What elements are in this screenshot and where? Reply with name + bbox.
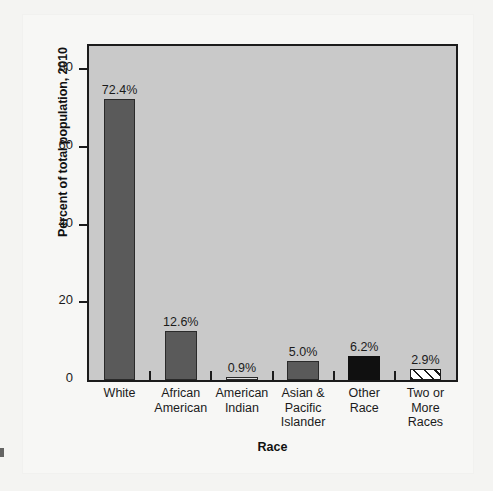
bar-asian-pacific-islander: 5.0% (287, 361, 319, 380)
bar-chart-figure: Percent of total population, 2010 020406… (0, 0, 493, 491)
figure-page: Percent of total population, 2010 020406… (0, 0, 493, 491)
y-tick-mark (79, 68, 87, 70)
x-axis-title: Race (87, 440, 458, 454)
y-tick-mark (79, 146, 87, 148)
x-category-label: Asian &PacificIslander (273, 386, 334, 430)
plot-inner (89, 46, 456, 380)
x-tick-mark (272, 371, 274, 380)
x-category-line: Islander (273, 415, 334, 430)
plot-area (87, 44, 458, 382)
bar-white: 72.4% (104, 99, 136, 380)
x-category-line: Race (334, 401, 395, 416)
bar-african-american: 12.6% (165, 331, 197, 380)
x-category-line: American (150, 401, 211, 416)
y-tick-label: 60 (45, 137, 73, 152)
y-tick-mark (79, 301, 87, 303)
x-category-line: Pacific (273, 401, 334, 416)
x-category-line: More (395, 401, 456, 416)
y-tick-mark (79, 224, 87, 226)
bar-other-race: 6.2% (348, 356, 380, 380)
x-category-line: Other (334, 386, 395, 401)
x-tick-mark (149, 371, 151, 380)
bar-value-label: 12.6% (163, 315, 198, 329)
x-category-line: Races (395, 415, 456, 430)
x-category-line: Indian (211, 401, 272, 416)
bar-value-label: 6.2% (350, 340, 379, 354)
bar-value-label: 72.4% (102, 83, 137, 97)
x-category-label: White (89, 386, 150, 401)
x-category-label: AfricanAmerican (150, 386, 211, 415)
x-category-line: Two or (395, 386, 456, 401)
x-category-label: AmericanIndian (211, 386, 272, 415)
bar-value-label: 5.0% (289, 345, 318, 359)
y-tick-label: 20 (45, 292, 73, 307)
bar-two-or-more-races: 2.9% (410, 369, 442, 380)
x-tick-mark (210, 371, 212, 380)
x-category-line: American (211, 386, 272, 401)
bar-value-label: 0.9% (228, 361, 257, 375)
y-tick-label: 0 (45, 370, 73, 385)
x-tick-mark (333, 371, 335, 380)
x-category-label: OtherRace (334, 386, 395, 415)
y-tick-label: 80 (45, 59, 73, 74)
x-category-label: Two orMoreRaces (395, 386, 456, 430)
x-tick-mark (394, 371, 396, 380)
x-category-line: Asian & (273, 386, 334, 401)
y-tick-label: 40 (45, 215, 73, 230)
bar-value-label: 2.9% (411, 353, 440, 367)
x-category-line: White (89, 386, 150, 401)
bar-american-indian: 0.9% (226, 377, 258, 380)
x-category-line: African (150, 386, 211, 401)
